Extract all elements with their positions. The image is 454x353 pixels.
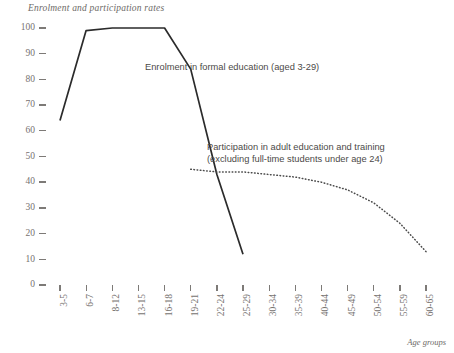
series-annotation-participation: Participation in adult education and tra… <box>207 142 385 165</box>
series-annotation-enrolment: Enrolment in formal education (aged 3-29… <box>145 62 319 74</box>
x-axis-title: Age groups <box>407 337 446 347</box>
plot-area <box>0 0 454 353</box>
chart-container: Enrolment and participation rates 010203… <box>0 0 454 353</box>
series-line-participation <box>191 169 426 251</box>
